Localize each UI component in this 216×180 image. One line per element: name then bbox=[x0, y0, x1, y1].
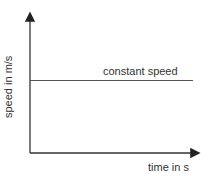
x-axis-label: time in s bbox=[148, 161, 189, 173]
line-annotation: constant speed bbox=[103, 65, 178, 77]
chart-canvas bbox=[0, 0, 216, 180]
y-axis-label: speed in m/s bbox=[2, 56, 14, 118]
